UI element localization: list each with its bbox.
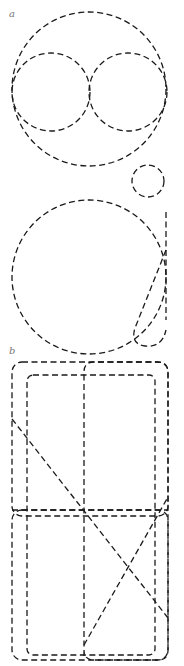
diagonal-down — [12, 419, 168, 618]
diagram-canvas — [0, 0, 184, 666]
small-circle-right — [89, 53, 167, 131]
panel-a — [12, 12, 167, 354]
small-circle-left — [12, 53, 90, 131]
tiny-circle — [132, 165, 164, 197]
big-circle-bottom — [12, 200, 166, 354]
outer-rect-top — [12, 362, 168, 516]
teardrop-loop — [134, 250, 166, 346]
inner-rect — [27, 375, 155, 655]
panel-b — [12, 362, 168, 660]
outer-rect-bottom — [12, 510, 168, 660]
right-tall-rect — [84, 362, 168, 660]
